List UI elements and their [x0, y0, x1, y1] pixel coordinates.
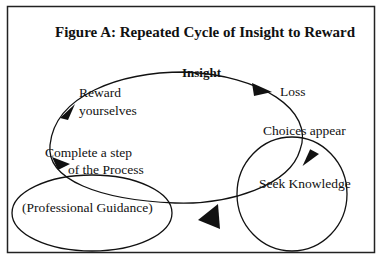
- arrow-reward: [60, 104, 75, 120]
- seek-circle: [237, 137, 347, 251]
- label-choices: Choices appear: [263, 124, 346, 138]
- arrow-choices: [297, 147, 320, 166]
- label-seek: Seek Knowledge: [259, 177, 351, 191]
- arrow-loss: [252, 83, 272, 96]
- label-complete-1: Complete a step: [45, 146, 132, 160]
- arrow-guidance: [198, 204, 220, 229]
- label-reward-2: yourselves: [79, 104, 137, 118]
- label-guidance: (Professional Guidance): [22, 201, 153, 215]
- label-reward-1: Reward: [79, 86, 121, 100]
- label-insight: Insight: [182, 66, 221, 79]
- figure-title: Figure A: Repeated Cycle of Insight to R…: [55, 25, 355, 40]
- label-loss: Loss: [280, 85, 306, 99]
- label-complete-2: of the Process: [68, 163, 144, 177]
